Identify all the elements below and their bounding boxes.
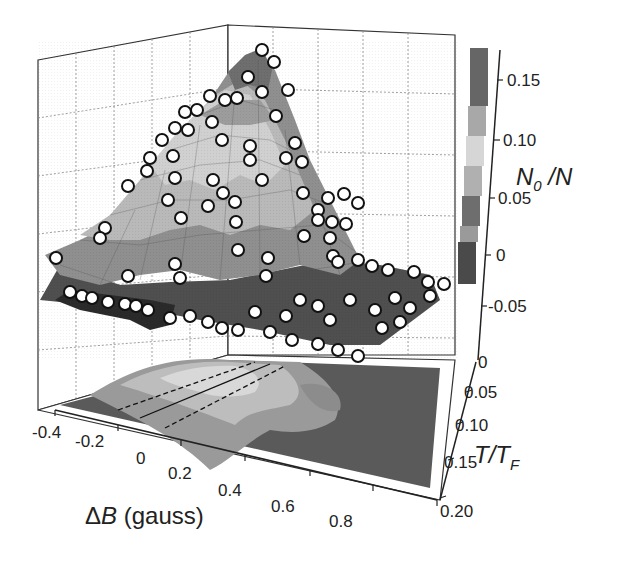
x-tick-0.2: 0.2: [168, 464, 192, 483]
x-tick-neg0.2: -0.2: [75, 432, 104, 451]
x-tick-0: 0: [136, 449, 145, 468]
x-tick-0.8: 0.8: [329, 512, 353, 531]
y-axis-label: T/TF: [474, 441, 520, 473]
y-tick-0.05: 0.05: [464, 383, 497, 402]
x-tick-0.4: 0.4: [218, 481, 242, 500]
y-tick-0.10: 0.10: [455, 416, 488, 435]
z-tick-0: 0: [496, 246, 505, 265]
z-tick-neg0.05: -0.05: [488, 297, 527, 316]
y-tick-0.15: 0.15: [444, 453, 477, 472]
colorbar: [458, 48, 488, 284]
z-axis-label: N0 /N: [516, 163, 573, 194]
z-tick-0.05: 0.05: [498, 189, 531, 208]
y-tick-0.20: 0.20: [440, 502, 473, 521]
z-tick-0.15: 0.15: [507, 71, 540, 90]
x-tick-0.6: 0.6: [271, 497, 295, 516]
y-tick-0: 0: [478, 353, 487, 372]
x-tick-neg0.4: -0.4: [32, 423, 61, 442]
z-tick-0.10: 0.10: [503, 131, 536, 150]
surface-plot: 0.15 0.10 0.05 0 -0.05 0 N0 /N 0.05 0.10…: [0, 0, 642, 562]
x-axis-label: ΔB (gauss): [85, 502, 204, 529]
